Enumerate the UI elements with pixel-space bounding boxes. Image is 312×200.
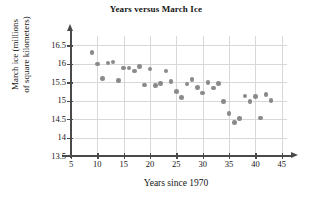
y-axis-tick-label: 16 <box>58 59 67 68</box>
x-axis-tick-label: 30 <box>191 160 215 169</box>
data-point <box>127 66 132 71</box>
data-point <box>116 78 121 83</box>
data-point <box>237 116 242 121</box>
y-axis-tick-label: 14.5 <box>51 115 66 124</box>
y-axis-tick <box>67 101 73 102</box>
chart-title: Years versus March Ice <box>0 4 312 14</box>
data-point <box>221 99 226 104</box>
x-axis-tick-label: 10 <box>85 160 109 169</box>
y-axis-tick-label: 16.5 <box>51 41 66 50</box>
x-axis-tick-label: 20 <box>138 160 162 169</box>
x-axis-tick-label: 45 <box>270 160 294 169</box>
y-axis-arrow-icon <box>67 24 73 31</box>
data-point <box>185 82 190 87</box>
y-axis-tick-label: 15 <box>58 96 67 105</box>
data-point <box>179 95 184 100</box>
data-point <box>158 81 163 86</box>
gridline-vertical <box>176 36 177 156</box>
y-axis-title-line-1: March ice (millions <box>10 0 21 121</box>
data-point <box>164 69 169 74</box>
x-axis-tick-label: 40 <box>243 160 267 169</box>
x-axis-title: Years since 1970 <box>60 178 292 188</box>
data-point <box>148 67 153 72</box>
gridline-vertical <box>282 36 283 156</box>
data-point <box>264 92 269 97</box>
y-axis-tick-label: 14 <box>58 133 67 142</box>
gridline-vertical <box>229 36 230 156</box>
y-axis-title: March ice (millions of square kilometers… <box>10 0 31 121</box>
x-axis-tick-label: 35 <box>217 160 241 169</box>
data-point <box>195 85 200 90</box>
y-axis-tick <box>67 64 73 65</box>
data-point <box>200 91 205 96</box>
data-point <box>142 83 147 88</box>
data-point <box>153 83 158 88</box>
y-axis-title-line-2: of square kilometers) <box>20 0 31 121</box>
data-point <box>243 94 248 99</box>
plot-area <box>71 36 287 156</box>
data-point <box>248 99 253 104</box>
data-point <box>90 50 95 55</box>
x-axis-tick-label: 15 <box>112 160 136 169</box>
data-point <box>269 98 274 103</box>
gridline-vertical <box>97 36 98 156</box>
x-axis-tick-label: 25 <box>164 160 188 169</box>
x-axis-tick-label: 5 <box>59 160 83 169</box>
data-point <box>232 120 237 125</box>
data-point <box>211 86 216 91</box>
y-axis-tick <box>67 119 73 120</box>
data-point <box>227 111 232 116</box>
gridline-vertical <box>150 36 151 156</box>
data-point <box>216 81 221 86</box>
gridline-vertical <box>203 36 204 156</box>
data-point <box>169 79 174 84</box>
y-axis-tick <box>67 138 73 139</box>
y-axis-tick <box>67 82 73 83</box>
data-point <box>95 62 100 67</box>
gridline-vertical <box>124 36 125 156</box>
y-axis-tick-label: 15.5 <box>51 78 66 87</box>
y-axis-tick <box>67 45 73 46</box>
data-point <box>137 64 142 69</box>
data-point <box>174 89 179 94</box>
data-point <box>100 76 105 81</box>
data-point <box>206 80 211 85</box>
scatter-plot-figure: Years versus March Ice March ice (millio… <box>0 0 312 200</box>
x-axis-arrow-icon <box>291 152 298 158</box>
data-point <box>132 69 137 74</box>
data-point <box>121 66 126 71</box>
data-point <box>253 94 258 99</box>
